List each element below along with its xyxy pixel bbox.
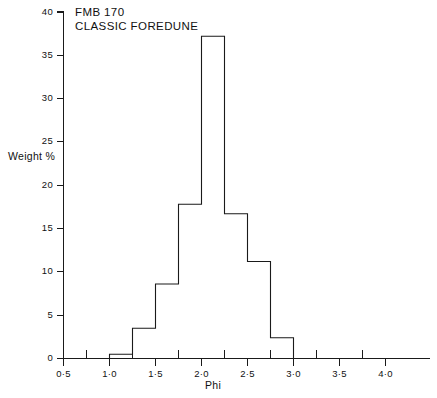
y-tick-label-20: 20 — [27, 179, 53, 190]
x-tick-label-0-5: 0·5 — [49, 368, 79, 379]
x-tick-label-1-5: 1·5 — [141, 368, 171, 379]
histogram-outline — [110, 36, 294, 358]
x-tick-marks-major — [64, 359, 386, 367]
y-axis-label: Weight % — [8, 150, 55, 162]
chart-title-line-2: CLASSIC FOREDUNE — [75, 20, 198, 32]
x-tick-label-2-0: 2·0 — [187, 368, 217, 379]
y-tick-label-40: 40 — [27, 6, 53, 17]
x-tick-label-1-0: 1·0 — [95, 368, 125, 379]
y-tick-label-25: 25 — [27, 135, 53, 146]
y-tick-label-10: 10 — [27, 265, 53, 276]
y-tick-label-30: 30 — [27, 92, 53, 103]
histogram-figure: FMB 170 CLASSIC FOREDUNE Weight % Phi 0 … — [0, 0, 437, 398]
y-tick-label-5: 5 — [27, 309, 53, 320]
y-tick-marks — [57, 12, 64, 359]
x-tick-label-2-5: 2·5 — [233, 368, 263, 379]
histogram-plot — [0, 0, 437, 398]
x-tick-label-4-0: 4·0 — [371, 368, 401, 379]
y-tick-label-0: 0 — [27, 352, 53, 363]
x-tick-label-3-5: 3·5 — [325, 368, 355, 379]
y-tick-label-35: 35 — [27, 49, 53, 60]
y-tick-label-15: 15 — [27, 222, 53, 233]
x-axis-label: Phi — [205, 379, 221, 391]
x-tick-label-3-0: 3·0 — [279, 368, 309, 379]
chart-title-line-1: FMB 170 — [75, 6, 124, 18]
